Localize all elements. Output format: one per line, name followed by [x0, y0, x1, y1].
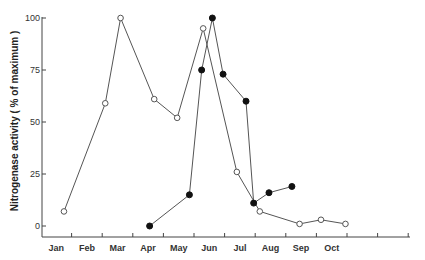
- open-circle-marker: [118, 15, 124, 21]
- y-tick-label: 0: [35, 221, 40, 231]
- filled-circle-marker: [186, 192, 192, 198]
- open-circle-marker: [102, 100, 108, 106]
- axes: 0255075100JanFebMarAprMayJunJulAugSepOct: [25, 13, 410, 253]
- series-filled: [147, 15, 295, 229]
- open-circle-marker: [318, 217, 324, 223]
- open-circle-marker: [297, 221, 303, 227]
- open-circle-marker: [174, 115, 180, 121]
- filled-circle-marker: [251, 200, 257, 206]
- x-tick-label: Aug: [262, 243, 280, 253]
- x-tick-label: Apr: [140, 243, 156, 253]
- x-tick-label: Jan: [49, 243, 65, 253]
- y-tick-label: 50: [30, 117, 40, 127]
- series-open: [61, 15, 348, 227]
- y-tick-label: 75: [30, 65, 40, 75]
- line-chart: 0255075100JanFebMarAprMayJunJulAugSepOct: [0, 0, 425, 260]
- filled-circle-marker: [243, 98, 249, 104]
- series-line: [64, 18, 346, 224]
- x-tick-label: Oct: [324, 243, 339, 253]
- x-tick-label: Jul: [233, 243, 246, 253]
- filled-circle-marker: [147, 223, 153, 229]
- y-axis-label: Nitrogenase activity ( % of maximum ): [9, 31, 20, 212]
- x-tick-label: Jun: [201, 243, 217, 253]
- filled-circle-marker: [289, 183, 295, 189]
- filled-circle-marker: [220, 71, 226, 77]
- open-circle-marker: [343, 221, 349, 227]
- open-circle-marker: [151, 96, 157, 102]
- filled-circle-marker: [266, 190, 272, 196]
- filled-circle-marker: [209, 15, 215, 21]
- open-circle-marker: [257, 209, 263, 215]
- y-tick-label: 25: [30, 169, 40, 179]
- open-circle-marker: [200, 26, 206, 32]
- x-tick-label: Sep: [293, 243, 310, 253]
- open-circle-marker: [234, 169, 240, 175]
- open-circle-marker: [61, 209, 67, 215]
- x-tick-label: May: [170, 243, 188, 253]
- series-layer: [61, 15, 348, 229]
- x-tick-label: Feb: [79, 243, 96, 253]
- y-tick-label: 100: [25, 13, 40, 23]
- filled-circle-marker: [199, 67, 205, 73]
- x-tick-label: Mar: [109, 243, 126, 253]
